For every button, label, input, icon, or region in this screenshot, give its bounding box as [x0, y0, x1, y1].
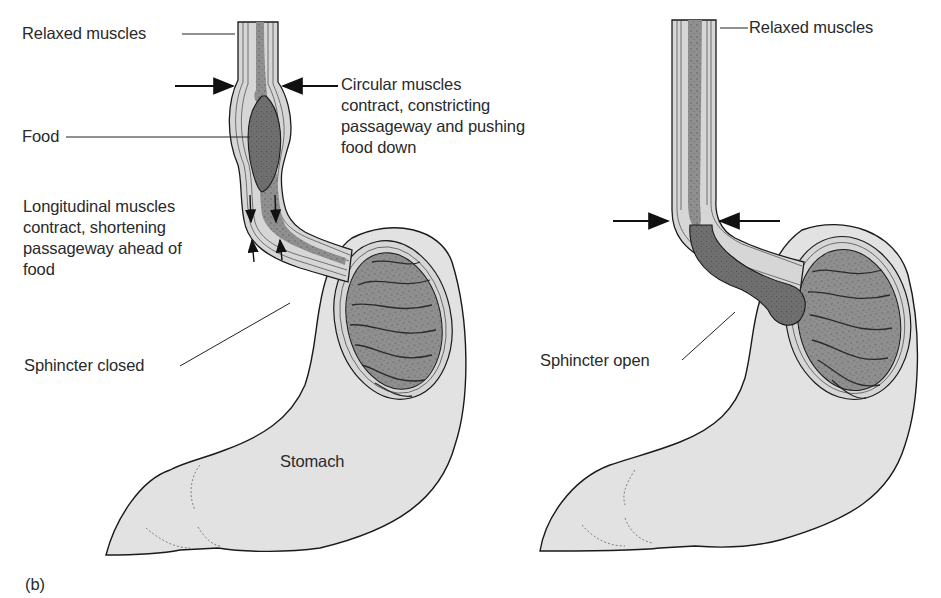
right-esophagus [672, 20, 805, 325]
label-relaxed-muscles-left: Relaxed muscles [22, 23, 146, 44]
label-sphincter-open: Sphincter open [540, 350, 650, 371]
left-esophagus [229, 22, 352, 282]
label-circular-muscles: Circular muscles contract, constricting … [341, 74, 525, 158]
panel-label: (b) [25, 574, 45, 595]
label-food: Food [22, 126, 59, 147]
label-sphincter-closed: Sphincter closed [24, 355, 144, 376]
label-longitudinal-muscles: Longitudinal muscles contract, shortenin… [23, 196, 182, 280]
label-relaxed-muscles-right: Relaxed muscles [749, 17, 873, 38]
label-stomach: Stomach [280, 451, 344, 472]
